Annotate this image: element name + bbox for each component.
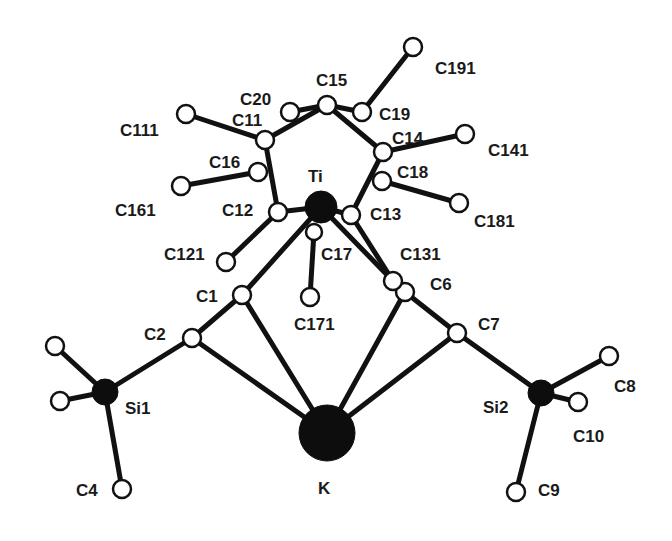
atom-label-c171: C171 xyxy=(294,315,335,334)
atom-label-c191: C191 xyxy=(435,59,476,78)
atom-label-c10: C10 xyxy=(573,427,604,446)
atom-label-c14: C14 xyxy=(392,129,424,148)
labels-layer: TiKSi1Si2C1C2C4C6C7C8C9C10C11C12C13C14C1… xyxy=(76,59,636,500)
atom-si1 xyxy=(92,379,118,405)
atom-label-c111: C111 xyxy=(120,121,159,140)
bond-si1-c4 xyxy=(105,392,122,489)
atom-label-c9: C9 xyxy=(538,481,560,500)
atom-c2 xyxy=(183,329,201,347)
atom-label-c8: C8 xyxy=(614,377,636,396)
atom-c141 xyxy=(456,125,474,143)
atom-c3 xyxy=(46,337,64,355)
atom-label-ti: Ti xyxy=(308,167,323,186)
atom-label-c7: C7 xyxy=(478,315,500,334)
atom-c1 xyxy=(233,286,251,304)
atom-c10 xyxy=(569,393,587,411)
atom-label-c11: C11 xyxy=(232,111,262,130)
atom-c14 xyxy=(374,143,392,161)
atom-label-c2: C2 xyxy=(144,325,166,344)
atom-label-c121: C121 xyxy=(164,245,205,264)
atom-c121 xyxy=(217,253,235,271)
atom-si2 xyxy=(528,380,554,406)
atom-c17 xyxy=(306,224,322,240)
atom-c131 xyxy=(384,272,402,290)
atom-c18 xyxy=(373,172,391,190)
bond-c13-c131 xyxy=(351,215,393,281)
atom-label-c19: C19 xyxy=(379,105,410,124)
atom-label-c20: C20 xyxy=(240,90,271,109)
atom-label-si1: Si1 xyxy=(125,399,151,418)
atom-label-c13: C13 xyxy=(370,205,401,224)
bond-c19-c191 xyxy=(362,47,413,112)
molecular-structure-diagram: TiKSi1Si2C1C2C4C6C7C8C9C10C11C12C13C14C1… xyxy=(0,0,672,541)
atom-c15 xyxy=(318,96,336,114)
atom-label-c131: C131 xyxy=(400,245,441,264)
atom-k xyxy=(299,405,355,461)
atom-label-c16: C16 xyxy=(209,153,240,172)
bond-c16-c161 xyxy=(181,172,258,186)
bond-c18-c181 xyxy=(382,181,459,203)
atom-label-c6: C6 xyxy=(430,275,452,294)
atom-c13 xyxy=(342,206,360,224)
atom-c181 xyxy=(450,194,468,212)
bond-si2-c9 xyxy=(516,393,541,492)
atom-c8 xyxy=(600,347,618,365)
atom-label-c181: C181 xyxy=(474,212,515,231)
atom-c4 xyxy=(113,480,131,498)
atom-label-c4: C4 xyxy=(76,481,98,500)
atom-label-si2: Si2 xyxy=(483,398,509,417)
atom-label-c15: C15 xyxy=(316,71,347,90)
atom-c12 xyxy=(269,203,287,221)
atom-c20 xyxy=(281,103,299,121)
atom-c5 xyxy=(51,392,69,410)
atom-c111 xyxy=(177,105,195,123)
atom-c19 xyxy=(353,103,371,121)
atom-c16 xyxy=(249,163,267,181)
atom-c11 xyxy=(256,131,274,149)
atom-label-c12: C12 xyxy=(222,201,253,220)
atom-label-c18: C18 xyxy=(397,163,428,182)
atom-label-c141: C141 xyxy=(488,141,529,160)
bond-c2-si1 xyxy=(105,338,192,392)
bond-c7-si2 xyxy=(457,333,541,393)
atom-c9 xyxy=(507,483,525,501)
atom-c191 xyxy=(404,38,422,56)
atom-label-c1: C1 xyxy=(196,287,218,306)
atom-c7 xyxy=(448,324,466,342)
atom-ti xyxy=(305,191,337,223)
atom-c161 xyxy=(172,177,190,195)
atom-label-c161: C161 xyxy=(115,201,156,220)
atom-c171 xyxy=(301,288,319,306)
atom-label-c17: C17 xyxy=(321,245,352,264)
atom-label-k: K xyxy=(318,479,331,498)
